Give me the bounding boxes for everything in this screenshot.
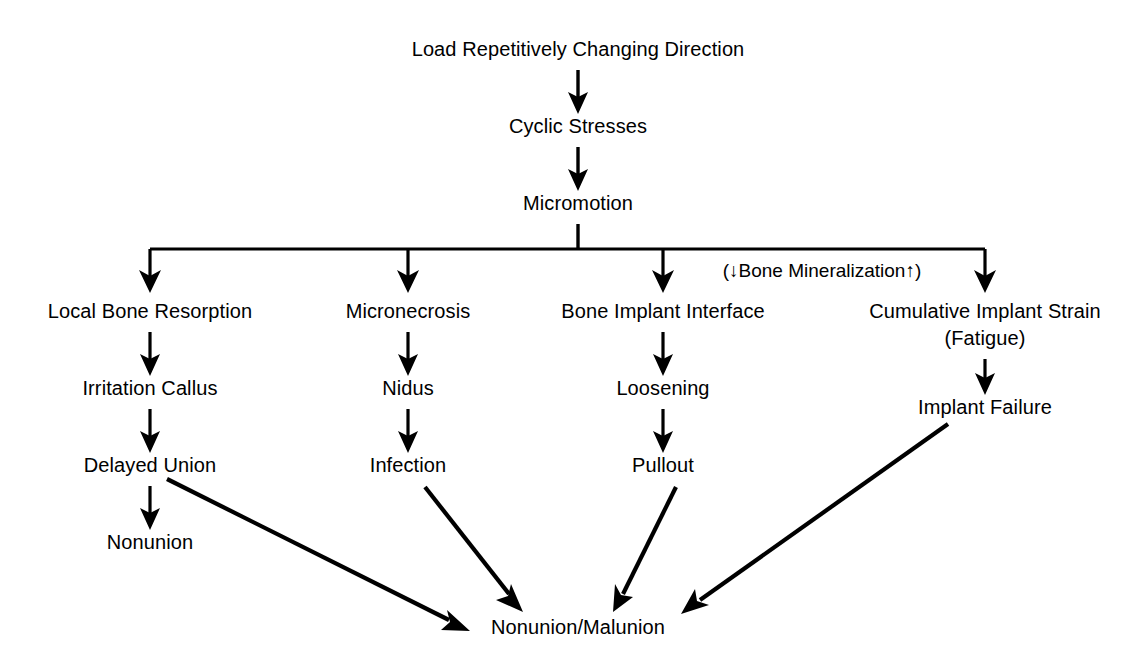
edge-load-to-cyclic xyxy=(568,70,588,114)
flowchart-diagram: Load Repetitively Changing Direction Cyc… xyxy=(0,0,1138,657)
node-loosening: Loosening xyxy=(616,377,709,399)
edge-delayed-union-to-nonunion xyxy=(140,486,160,530)
node-delayed-union: Delayed Union xyxy=(84,454,217,476)
node-cumulative-implant-strain: Cumulative Implant Strain xyxy=(869,300,1100,322)
edge-resorption-to-callus xyxy=(140,332,160,376)
flowchart-canvas: Load Repetitively Changing Direction Cyc… xyxy=(0,0,1138,657)
node-pullout: Pullout xyxy=(632,454,694,476)
node-irritation-callus: Irritation Callus xyxy=(82,377,217,399)
edge-micronecrosis-to-nidus xyxy=(398,332,418,376)
edge-loosening-to-pullout xyxy=(653,409,673,453)
edge-callus-to-delayed-union xyxy=(140,409,160,453)
node-bone-implant-interface: Bone Implant Interface xyxy=(561,300,764,322)
edge-interface-to-loosening xyxy=(653,332,673,376)
edge-nidus-to-infection xyxy=(398,409,418,453)
node-fatigue: (Fatigue) xyxy=(945,327,1026,349)
edge-cyclic-to-micromotion xyxy=(568,147,588,191)
node-implant-failure: Implant Failure xyxy=(918,396,1052,418)
node-nidus: Nidus xyxy=(382,377,434,399)
node-load-repetitively-changing-direction: Load Repetitively Changing Direction xyxy=(412,38,745,60)
node-nonunion-malunion: Nonunion/Malunion xyxy=(491,616,665,638)
edge-delayed-union-to-terminal xyxy=(167,479,470,631)
node-micromotion: Micromotion xyxy=(523,192,633,214)
node-infection: Infection xyxy=(370,454,447,476)
edge-pullout-to-terminal xyxy=(613,487,676,612)
node-local-bone-resorption: Local Bone Resorption xyxy=(48,300,252,322)
edge-strain-to-implant-failure xyxy=(975,359,995,395)
edge-infection-to-terminal xyxy=(425,487,523,612)
node-cyclic-stresses: Cyclic Stresses xyxy=(509,115,647,137)
node-nonunion: Nonunion xyxy=(107,531,193,553)
node-micronecrosis: Micronecrosis xyxy=(346,300,471,322)
annotation-bone-mineralization: (↓Bone Mineralization↑) xyxy=(723,260,922,281)
edge-implant-failure-to-terminal xyxy=(681,424,948,614)
